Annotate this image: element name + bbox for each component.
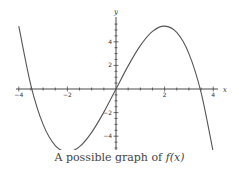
y-tick-label: 2 [108, 61, 112, 68]
x-tick-label: −4 [14, 91, 23, 98]
tick-labels: −4−224−4−224xy [14, 8, 227, 139]
x-tick-label: 4 [211, 91, 215, 98]
x-axis-label: x [223, 86, 227, 94]
caption-function: f(x) [166, 151, 185, 164]
caption-prefix: A possible graph of [54, 151, 165, 164]
x-tick-label: 2 [163, 91, 167, 98]
y-tick-label: −4 [103, 132, 112, 139]
x-tick-label: −2 [63, 91, 72, 98]
function-graph: −4−224−4−224xy [0, 0, 239, 150]
y-axis-label: y [113, 8, 119, 16]
y-tick-label: 4 [108, 38, 112, 45]
figure-caption: A possible graph of f(x) [0, 150, 239, 166]
